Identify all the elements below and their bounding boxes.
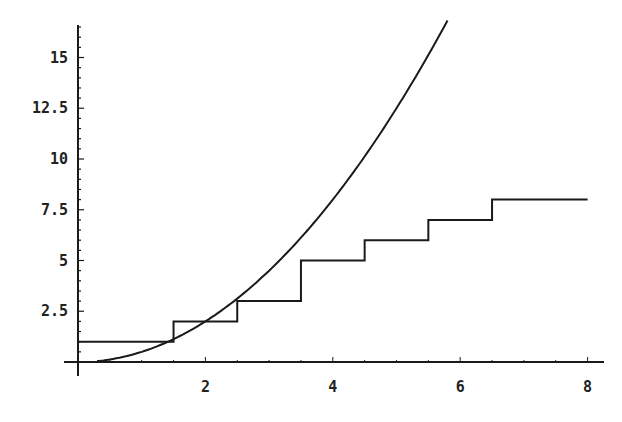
y-tick-label: 2.5 (41, 302, 68, 320)
step-function-line (78, 200, 588, 342)
x-tick-label: 2 (201, 378, 210, 396)
x-axis-ticks: 2468 (201, 378, 592, 396)
chart-plot: 2.557.51012.515 2468 (0, 0, 622, 422)
y-tick-label: 12.5 (32, 99, 68, 117)
y-tick-label: 15 (50, 49, 68, 67)
y-tick-label: 5 (59, 252, 68, 270)
x-tick-label: 4 (328, 378, 337, 396)
y-tick-label: 10 (50, 150, 68, 168)
parabola-curve (97, 21, 447, 362)
x-tick-label: 8 (583, 378, 592, 396)
x-tick-label: 6 (456, 378, 465, 396)
y-axis-ticks: 2.557.51012.515 (32, 49, 68, 321)
y-tick-label: 7.5 (41, 201, 68, 219)
